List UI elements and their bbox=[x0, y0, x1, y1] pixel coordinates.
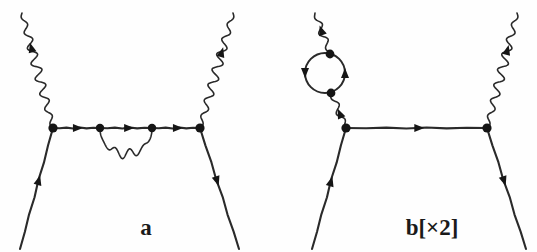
outgoing-photon-upper-right-arrow bbox=[502, 45, 510, 56]
incoming-electron-lower-left-arrow bbox=[326, 176, 334, 187]
outgoing-photon-upper-right-stroke bbox=[200, 13, 234, 128]
diagram-label-b: b[×2] bbox=[406, 215, 459, 240]
incoming-photon-upper-left-arrow bbox=[319, 26, 327, 37]
a-inner-left-vertex bbox=[96, 124, 104, 132]
diagram-b: b[×2] bbox=[301, 13, 526, 249]
virtual-photon-arc bbox=[100, 128, 152, 159]
vacuum-polarization-bubble bbox=[301, 53, 349, 93]
outgoing-electron-lower-right-stroke bbox=[200, 128, 239, 249]
virtual-photon-arc-stroke bbox=[100, 128, 152, 159]
outgoing-photon-upper-right-stroke bbox=[487, 13, 518, 128]
a-inner-right-vertex bbox=[148, 124, 156, 132]
diagram-a: a bbox=[20, 13, 239, 249]
internal-fermion-arrow bbox=[414, 124, 424, 132]
incoming-electron-lower-left bbox=[312, 128, 346, 249]
photon-stub-to-vertex bbox=[331, 93, 346, 128]
outgoing-electron-lower-right bbox=[200, 128, 239, 249]
internal-fermion-middle bbox=[100, 124, 152, 132]
b-loop-bottom-vertex bbox=[327, 89, 336, 98]
b-right-vertex bbox=[482, 123, 491, 132]
incoming-electron-lower-left-stroke bbox=[312, 128, 346, 249]
b-loop-top-vertex bbox=[326, 50, 335, 59]
vacuum-polarization-bubble-arrow-0 bbox=[301, 68, 309, 78]
a-right-vertex bbox=[195, 123, 204, 132]
outgoing-electron-lower-right-arrow bbox=[212, 175, 220, 186]
vacuum-polarization-bubble-circle bbox=[305, 53, 345, 93]
incoming-electron-lower-left-stroke bbox=[20, 128, 53, 249]
internal-fermion-left-arrow bbox=[73, 124, 83, 132]
b-left-vertex bbox=[341, 123, 350, 132]
outgoing-electron-lower-right-arrow bbox=[499, 175, 507, 186]
internal-fermion-right bbox=[152, 124, 200, 132]
a-left-vertex bbox=[48, 123, 57, 132]
incoming-photon-upper-left bbox=[21, 13, 53, 128]
incoming-photon-upper-left-stroke bbox=[21, 13, 53, 128]
outgoing-electron-lower-right bbox=[487, 128, 526, 249]
figure-root: ab[×2] bbox=[0, 0, 537, 252]
incoming-electron-lower-left-arrow bbox=[34, 175, 42, 186]
vacuum-polarization-bubble-arrow-1 bbox=[341, 68, 349, 78]
outgoing-photon-upper-right bbox=[487, 13, 518, 128]
outgoing-photon-upper-right bbox=[200, 13, 234, 128]
internal-fermion-left bbox=[53, 124, 100, 132]
diagram-label-a: a bbox=[140, 215, 152, 240]
internal-fermion-right-arrow bbox=[173, 124, 183, 132]
incoming-photon-upper-left bbox=[315, 13, 331, 54]
feynman-diagram-canvas: ab[×2] bbox=[0, 0, 537, 252]
internal-fermion-middle-arrow bbox=[124, 124, 134, 132]
incoming-electron-lower-left bbox=[20, 128, 53, 249]
outgoing-electron-lower-right-stroke bbox=[487, 128, 526, 249]
internal-fermion bbox=[346, 124, 487, 132]
